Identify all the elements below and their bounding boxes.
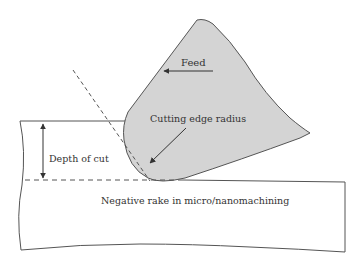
- feed-label: Feed: [181, 57, 206, 68]
- tool: [124, 20, 311, 182]
- cutting-edge-radius-label: Cutting edge radius: [150, 113, 246, 124]
- caption-label: Negative rake in micro/nanomachining: [101, 195, 289, 206]
- depth-of-cut-label: Depth of cut: [49, 153, 109, 164]
- machining-diagram: Feed Cutting edge radius Depth of cut Ne…: [0, 0, 361, 267]
